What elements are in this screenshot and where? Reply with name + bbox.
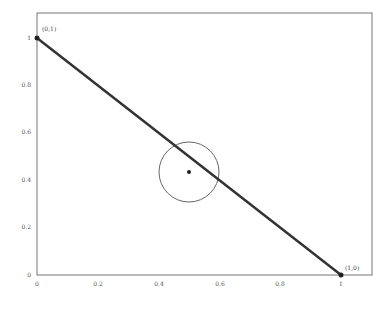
y-tick-label: 0.6 xyxy=(21,128,31,135)
y-tick-label: 0 xyxy=(27,271,31,278)
plot-frame xyxy=(37,13,372,275)
x-tick-label: 0.4 xyxy=(154,280,164,287)
point-label-start: (0,1) xyxy=(42,25,56,32)
y-tick-label: 0.8 xyxy=(21,81,31,88)
point-end xyxy=(339,273,344,278)
x-ticks: 0 0.2 0.4 0.6 0.8 1 xyxy=(35,280,343,287)
point-start xyxy=(35,36,40,41)
y-tick-label: 0.2 xyxy=(21,223,31,230)
point-label-end: (1,0) xyxy=(345,264,359,271)
point-mid xyxy=(187,170,191,174)
y-ticks: 0 0.2 0.4 0.6 0.8 1 xyxy=(21,34,31,278)
chart: 0 0.2 0.4 0.6 0.8 1 0 0.2 0.4 0.6 0.8 1 … xyxy=(0,0,388,326)
y-tick-label: 0.4 xyxy=(21,176,31,183)
x-tick-label: 0.6 xyxy=(215,280,225,287)
x-tick-label: 1 xyxy=(339,280,343,287)
x-tick-label: 0.2 xyxy=(93,280,103,287)
y-tick-label: 1 xyxy=(27,34,31,41)
x-tick-label: 0 xyxy=(35,280,39,287)
x-tick-label: 0.8 xyxy=(275,280,285,287)
segment-line xyxy=(37,38,341,275)
